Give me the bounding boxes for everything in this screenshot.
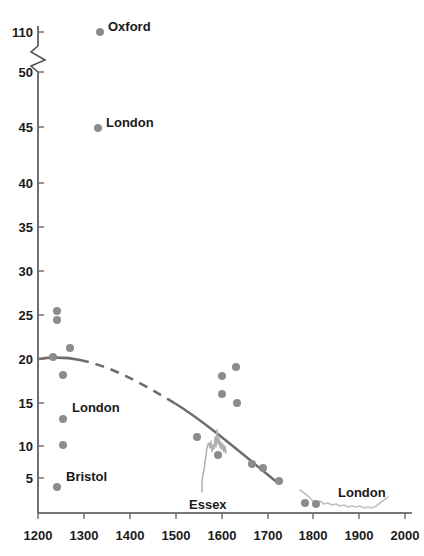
y-tick-label-45: 45: [19, 120, 33, 135]
data-point: [59, 441, 67, 449]
x-tick-label-1900: 1900: [345, 528, 374, 543]
annotation-label-london-top: London: [106, 115, 154, 130]
x-axis-ticks: [38, 513, 405, 519]
scatter-chart: 110 50 45 40 35 30 25 20 15 10 5 1200: [0, 0, 424, 556]
data-point: [214, 451, 222, 459]
annotation-label-essex: Essex: [189, 497, 227, 512]
y-tick-label-20: 20: [19, 352, 33, 367]
trend-line-series: [38, 358, 278, 483]
x-tick-label-1800: 1800: [299, 528, 328, 543]
trend-line-segment-dashed: [80, 360, 176, 404]
data-point: [312, 500, 320, 508]
scatter-points-group: [49, 28, 320, 508]
x-tick-label-1300: 1300: [70, 528, 99, 543]
y-tick-label-50: 50: [19, 65, 33, 80]
x-tick-label-1400: 1400: [116, 528, 145, 543]
annotation-label-bristol: Bristol: [66, 469, 107, 484]
data-point: [301, 499, 309, 507]
data-point: [218, 390, 226, 398]
trend-line-segment-solid-left: [38, 358, 80, 360]
data-point: [248, 460, 256, 468]
y-tick-label-10: 10: [19, 439, 33, 454]
data-point: [53, 483, 61, 491]
data-point: [59, 415, 67, 423]
annotation-label-london-mid: London: [72, 400, 120, 415]
x-tick-label-2000: 2000: [391, 528, 420, 543]
data-point: [66, 344, 74, 352]
data-point: [53, 316, 61, 324]
chart-container: 110 50 45 40 35 30 25 20 15 10 5 1200: [0, 0, 424, 556]
y-tick-label-15: 15: [19, 396, 33, 411]
y-tick-label-35: 35: [19, 220, 33, 235]
x-tick-label-1600: 1600: [208, 528, 237, 543]
annotation-label-oxford: Oxford: [108, 19, 151, 34]
y-tick-label-30: 30: [19, 264, 33, 279]
data-point: [275, 477, 283, 485]
data-point: [59, 371, 67, 379]
annotations-group: Oxford London London Bristol Essex Londo…: [66, 19, 386, 512]
y-axis-ticks: [38, 32, 44, 478]
y-tick-label-25: 25: [19, 308, 33, 323]
x-tick-label-1500: 1500: [162, 528, 191, 543]
annotation-label-london-right: London: [338, 485, 386, 500]
data-point: [94, 124, 102, 132]
data-point: [232, 363, 240, 371]
y-tick-label-5: 5: [26, 471, 33, 486]
x-tick-label-1700: 1700: [254, 528, 283, 543]
y-tick-label-40: 40: [19, 176, 33, 191]
data-point: [233, 399, 241, 407]
y-axis-tick-labels: 110 50 45 40 35 30 25 20 15 10 5: [12, 25, 33, 486]
data-point: [53, 307, 61, 315]
axes: [31, 26, 412, 513]
y-tick-label-110: 110: [12, 25, 33, 40]
data-point: [193, 433, 201, 441]
data-point: [96, 28, 104, 36]
x-axis-tick-labels: 1200 1300 1400 1500 1600 1700 1800 1900 …: [24, 528, 420, 543]
data-point: [218, 372, 226, 380]
data-point: [49, 353, 57, 361]
axis-break-icon: [31, 46, 45, 72]
x-tick-label-1200: 1200: [24, 528, 53, 543]
data-point: [259, 464, 267, 472]
